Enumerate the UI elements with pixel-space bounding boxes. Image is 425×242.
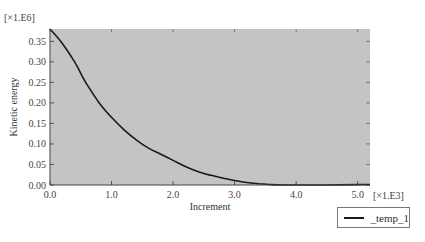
plot-area <box>50 29 370 185</box>
x-tick-label: 0.0 <box>44 189 57 200</box>
x-tick-label: 1.0 <box>105 189 118 200</box>
y-tick-label: 0.25 <box>29 77 47 88</box>
legend-line-swatch <box>344 217 364 219</box>
y-tick-label: 0.30 <box>29 56 47 67</box>
legend: _temp_1 <box>337 207 410 228</box>
x-axis-title: Increment <box>190 201 231 212</box>
x-tick-label: 3.0 <box>228 189 241 200</box>
y-tick-label: 0.05 <box>29 159 47 170</box>
y-tick-label: 0.15 <box>29 118 47 129</box>
kinetic-energy-chart: 0.000.050.100.150.200.250.300.35 0.01.02… <box>0 0 425 242</box>
x-tick-label: 5.0 <box>351 189 364 200</box>
y-axis-title: Kinetic energy <box>8 78 19 137</box>
y-tick-label: 0.10 <box>29 138 47 149</box>
y-tick-label: 0.20 <box>29 97 47 108</box>
x-multiplier-label: [×1.E3] <box>373 190 404 201</box>
x-tick-label: 4.0 <box>290 189 303 200</box>
y-multiplier-label: [×1.E6] <box>4 12 35 23</box>
x-tick-label: 2.0 <box>167 189 180 200</box>
legend-label: _temp_1 <box>371 212 410 224</box>
y-tick-label: 0.35 <box>29 36 47 47</box>
